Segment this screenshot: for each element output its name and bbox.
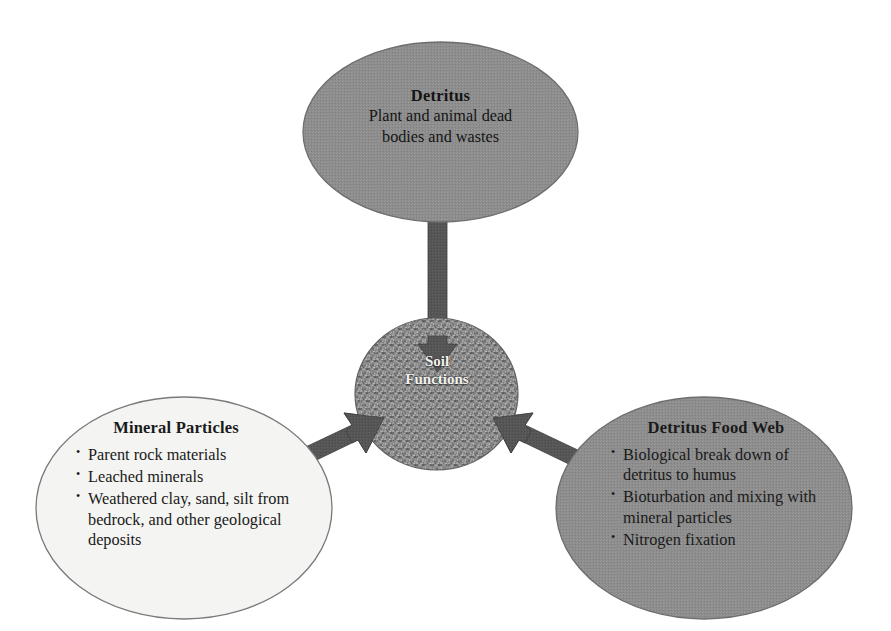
detritus-food-web-node[interactable] <box>556 397 852 619</box>
arrow-mineral-particles-to-soil-functions-target[interactable] <box>289 414 385 476</box>
detritus-node[interactable] <box>303 42 578 222</box>
arrow-detritus-to-soil-functions-target[interactable] <box>414 200 458 326</box>
mineral-particles-node[interactable] <box>36 397 332 619</box>
arrow-detritus-food-web-to-soil-functions-target[interactable] <box>492 414 588 476</box>
soil-functions-diagram: Detritus Plant and animal dead bodies an… <box>0 0 891 631</box>
